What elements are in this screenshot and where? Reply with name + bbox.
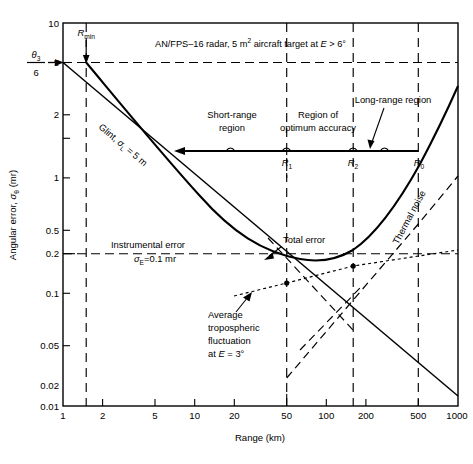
x-tick-label: 10 — [189, 410, 200, 421]
tropo-marker — [284, 280, 289, 285]
svg-text:Region of: Region of — [298, 109, 339, 120]
svg-text:Short-range: Short-range — [207, 109, 257, 120]
svg-text:region: region — [219, 122, 245, 133]
x-tick-label: 2 — [100, 410, 105, 421]
x-tick-label: 20 — [229, 410, 240, 421]
x-tick-label: 5 — [152, 410, 157, 421]
y-axis-title: Angular error, σθ (mr) — [7, 170, 20, 261]
y-tick-label: 0.1 — [46, 288, 59, 299]
x-tick-label: 1000 — [446, 410, 467, 421]
y-tick-label: 1 — [54, 172, 59, 183]
svg-text:Total error: Total error — [283, 234, 325, 245]
x-tick-label: 500 — [410, 410, 426, 421]
y-tick-label: 10 — [48, 18, 59, 29]
y-tick-label: 0.2 — [46, 248, 59, 259]
x-tick-label: 1 — [60, 410, 65, 421]
figure-container: 1 2 5 10 20 50 100 200 500 1000 10 5 2 1… — [0, 0, 473, 464]
svg-text:Angular error, σθ (mr): Angular error, σθ (mr) — [7, 170, 20, 261]
svg-text:Instrumental error: Instrumental error — [111, 239, 185, 250]
x-axis-title: Range (km) — [235, 432, 285, 443]
svg-text:optimum accuracy: optimum accuracy — [280, 122, 356, 133]
svg-text:Long-range region: Long-range region — [355, 94, 432, 105]
tropo-marker — [351, 263, 356, 268]
chart-title: AN/FPS–16 radar, 5 m2 aircraft target at… — [155, 37, 346, 49]
x-tick-label: 50 — [281, 410, 292, 421]
svg-text:tropospheric: tropospheric — [208, 322, 260, 333]
y-tick-label: 0.01 — [40, 401, 59, 412]
angular-error-vs-range-chart: 1 2 5 10 20 50 100 200 500 1000 10 5 2 1… — [0, 0, 473, 464]
y-tick-label: 0.02 — [40, 380, 59, 391]
x-tick-label: 200 — [358, 410, 374, 421]
y-tick-label: 0.05 — [40, 340, 59, 351]
y-tick-label: 0.5 — [46, 225, 59, 236]
svg-text:at E = 3°: at E = 3° — [208, 348, 245, 359]
y-tick-label: 2 — [54, 109, 59, 120]
x-tick-label: 100 — [318, 410, 334, 421]
svg-text:fluctuation: fluctuation — [208, 335, 251, 346]
svg-text:6: 6 — [33, 67, 38, 78]
